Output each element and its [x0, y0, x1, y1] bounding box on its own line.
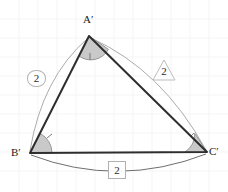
side-label-ab: 2 [27, 70, 46, 87]
vertex-label-c-prime: C′ [209, 146, 219, 157]
vertex-label-b-prime: B′ [11, 147, 21, 158]
side-label-bc: 2 [108, 161, 126, 179]
vertex-label-a-prime: A′ [83, 14, 93, 25]
diagram-canvas: A′ B′ C′ 2 2 2 [0, 0, 228, 192]
side-label-ac: 2 [154, 62, 174, 81]
angle-b-prime-tick [47, 134, 52, 138]
